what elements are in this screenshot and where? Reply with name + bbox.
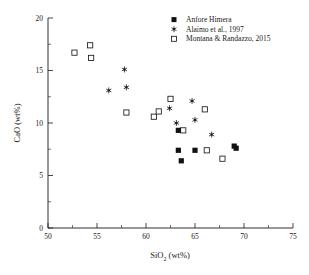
y-axis-title: CaO (wt%) [12, 103, 22, 142]
data-point [220, 156, 225, 161]
series-montana-randazzo-2015 [72, 43, 225, 162]
legend: Anfore HimeraAlaimo et al., 1997Montana … [171, 15, 270, 43]
data-point [192, 117, 197, 123]
x-tick-label: 50 [44, 232, 52, 241]
data-point [176, 148, 181, 153]
x-axis-title-main: SiO [150, 250, 163, 260]
y-tick-label: 10 [36, 119, 44, 128]
x-tick-label: 70 [240, 232, 248, 241]
data-point [106, 87, 111, 93]
legend-label: Alaimo et al., 1997 [186, 25, 244, 34]
y-axis-ticks [48, 18, 53, 228]
x-axis-title-unit: (wt%) [166, 250, 190, 260]
legend-marker [171, 26, 176, 32]
x-axis-title: SiO2 (wt%) [150, 250, 190, 262]
chart-canvas: 505560657075 05101520 SiO2 (wt%) CaO (wt… [0, 0, 309, 275]
y-axis-tick-labels: 05101520 [36, 14, 44, 233]
y-axis-title-text: CaO (wt%) [12, 103, 22, 142]
data-point [124, 110, 129, 115]
data-point [189, 98, 194, 104]
x-tick-label: 75 [289, 232, 297, 241]
data-point [202, 107, 207, 112]
series-alaimo-1997 [106, 66, 214, 137]
data-point [179, 158, 184, 163]
x-tick-label: 65 [191, 232, 199, 241]
x-tick-label: 60 [142, 232, 150, 241]
data-point [181, 128, 186, 133]
data-point [209, 132, 214, 138]
legend-label: Anfore Himera [186, 15, 232, 24]
data-point [234, 146, 239, 151]
legend-label: Montana & Randazzo, 2015 [186, 34, 271, 43]
legend-marker [172, 36, 177, 41]
data-point [88, 43, 93, 48]
data-point [204, 148, 209, 153]
data-point [156, 109, 161, 114]
x-tick-label: 55 [93, 232, 101, 241]
data-point [192, 148, 197, 153]
data-point [122, 66, 127, 72]
scatter-plot-figure: 505560657075 05101520 SiO2 (wt%) CaO (wt… [0, 0, 309, 275]
data-point [174, 120, 179, 126]
data-point [167, 105, 172, 111]
data-point [89, 55, 94, 60]
data-point [124, 84, 129, 90]
y-tick-label: 15 [36, 66, 44, 75]
data-point [151, 114, 156, 119]
svg-text:SiO2 (wt%): SiO2 (wt%) [150, 250, 190, 262]
axis-lines [48, 18, 293, 228]
data-point [72, 50, 77, 55]
y-tick-label: 0 [39, 224, 43, 233]
data-point [176, 128, 181, 133]
y-tick-label: 5 [39, 171, 43, 180]
x-axis-tick-labels: 505560657075 [44, 232, 297, 241]
data-point [168, 96, 173, 101]
x-axis-ticks [48, 223, 293, 228]
legend-marker [172, 17, 177, 22]
y-tick-label: 20 [36, 14, 44, 23]
